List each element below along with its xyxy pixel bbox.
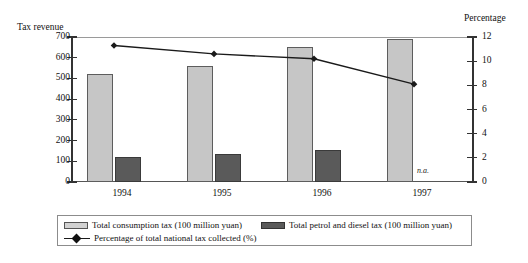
legend-item-percentage-line: Percentage of total national tax collect…	[64, 233, 256, 243]
right-axis-tick-label: 6	[482, 105, 487, 115]
bar	[115, 157, 141, 182]
right-axis-tick	[467, 133, 477, 134]
right-axis-tick	[467, 109, 477, 110]
bar	[87, 74, 113, 182]
right-axis-tick-label: 0	[482, 177, 487, 187]
left-axis-tick-label: 600	[56, 53, 70, 63]
right-axis-tick-label: 10	[482, 56, 492, 66]
bar	[187, 66, 213, 182]
right-axis-tick	[467, 181, 477, 182]
legend-swatch-light-bar-icon	[64, 222, 88, 229]
right-axis-tick	[467, 85, 477, 86]
plot-area: 7006005004003002001000 121086420 n.a.	[72, 37, 472, 182]
x-axis-label: 1994	[92, 188, 152, 198]
left-axis-tick-label: 0	[65, 177, 70, 187]
bar	[287, 47, 313, 182]
legend-item-consumption-tax: Total consumption tax (100 million yuan)	[64, 220, 242, 230]
legend-swatch-dark-bar-icon	[261, 222, 285, 229]
legend-label-petrol-diesel-tax: Total petrol and diesel tax (100 million…	[289, 220, 452, 230]
right-axis-title: Percentage	[464, 13, 506, 23]
percentage-line-markers	[111, 42, 418, 87]
plot-top-border	[72, 37, 472, 38]
x-axis-label: 1996	[292, 188, 352, 198]
line-marker-diamond-icon	[111, 42, 118, 49]
right-axis-tick	[467, 61, 477, 62]
legend-item-petrol-diesel-tax: Total petrol and diesel tax (100 million…	[261, 220, 452, 230]
percentage-line-path	[114, 45, 414, 84]
bar-missing-value-label: n.a.	[417, 166, 429, 175]
right-axis-tick-label: 8	[482, 80, 487, 90]
x-axis-label: 1995	[192, 188, 252, 198]
legend-swatch-line-diamond-icon	[64, 234, 90, 243]
line-marker-diamond-icon	[211, 51, 218, 58]
bar	[215, 154, 241, 182]
left-axis-tick-label: 200	[56, 136, 70, 146]
bar	[387, 39, 413, 182]
x-axis-label: 1997	[392, 188, 452, 198]
left-axis-tick-label: 100	[56, 156, 70, 166]
legend-label-consumption-tax: Total consumption tax (100 million yuan)	[92, 220, 242, 230]
right-axis-tick	[467, 36, 477, 37]
left-axis-tick-label: 700	[56, 32, 70, 42]
right-axis-tick-label: 2	[482, 153, 487, 163]
bar	[315, 150, 341, 182]
legend-label-percentage-line: Percentage of total national tax collect…	[94, 233, 256, 243]
left-axis-tick-label: 400	[56, 94, 70, 104]
right-axis-tick-label: 4	[482, 129, 487, 139]
left-axis-tick-label: 500	[56, 73, 70, 83]
chart-figure: Tax revenue Percentage 70060050040030020…	[0, 0, 528, 263]
right-axis-tick	[467, 157, 477, 158]
left-axis-tick-label: 300	[56, 115, 70, 125]
chart-legend: Total consumption tax (100 million yuan)…	[57, 215, 472, 246]
right-axis-tick-label: 12	[482, 32, 492, 42]
